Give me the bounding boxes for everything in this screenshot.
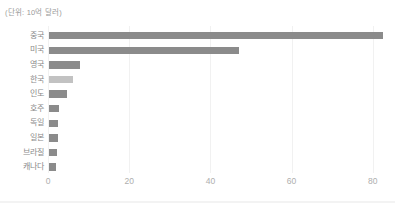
category-label-1: 미국 bbox=[0, 46, 44, 54]
gridline-x60 bbox=[292, 26, 293, 173]
category-label-3: 한국 bbox=[0, 76, 44, 84]
bar-7 bbox=[49, 134, 58, 141]
x-tick-label: 20 bbox=[124, 177, 133, 186]
category-label-5: 호주 bbox=[0, 105, 44, 113]
bar-4 bbox=[49, 90, 68, 97]
bar-6 bbox=[49, 120, 58, 127]
bar-8 bbox=[49, 149, 57, 156]
bottom-divider bbox=[0, 201, 395, 203]
category-label-4: 인도 bbox=[0, 90, 44, 98]
category-label-2: 영국 bbox=[0, 61, 44, 69]
bar-0 bbox=[49, 32, 383, 39]
bar-chart: (단위: 10억 달러) 020406080중국미국영국한국인도호주독일일본브라… bbox=[0, 0, 395, 208]
bar-2 bbox=[49, 61, 81, 68]
x-tick-label: 0 bbox=[46, 177, 51, 186]
bar-9 bbox=[49, 163, 56, 170]
category-label-8: 브라질 bbox=[0, 149, 44, 157]
x-tick-label: 60 bbox=[287, 177, 296, 186]
bar-3 bbox=[49, 76, 74, 83]
x-tick-label: 40 bbox=[206, 177, 215, 186]
category-label-9: 캐나다 bbox=[0, 163, 44, 171]
x-tick-label: 80 bbox=[368, 177, 377, 186]
bar-5 bbox=[49, 105, 60, 112]
chart-unit-label: (단위: 10억 달러) bbox=[5, 8, 62, 17]
category-label-7: 일본 bbox=[0, 134, 44, 142]
category-label-6: 독일 bbox=[0, 119, 44, 127]
gridline-x80 bbox=[373, 26, 374, 173]
bar-1 bbox=[49, 47, 239, 54]
category-label-0: 중국 bbox=[0, 32, 44, 40]
